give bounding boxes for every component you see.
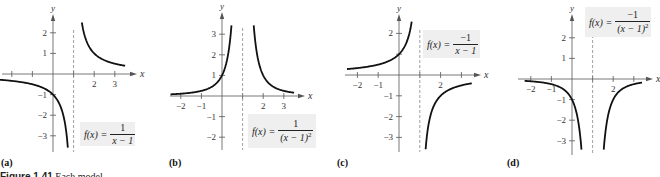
function-lhs: f(x) = [252, 126, 275, 137]
x-axis-arrow-icon [646, 77, 653, 81]
exponent: 2 [308, 131, 312, 139]
x-tick-label: −2 [176, 101, 186, 111]
y-tick-label: −2 [206, 132, 216, 142]
fraction: 1 (x − 1)2 [278, 119, 313, 143]
y-axis-label: y [396, 3, 401, 13]
figure-canvas: xy2321−1−2−3 xy−2−123321−1−2 xy−2−122−1−… [0, 0, 660, 177]
y-tick-label: −1 [37, 90, 47, 100]
panel-label-b: (b) [169, 157, 181, 168]
x-tick-label: −1 [197, 101, 207, 111]
function-label-d: f(x) = −1 (x − 1)2 [585, 7, 651, 37]
function-curve [604, 83, 642, 150]
denominator: x − 1 [453, 44, 478, 56]
y-axis-label: y [50, 3, 55, 13]
function-curve [0, 80, 68, 148]
fraction: −1 (x − 1)2 [615, 10, 650, 34]
panel-label-a: (a) [1, 157, 13, 168]
y-tick-label: −3 [383, 132, 393, 142]
function-label-b: f(x) = 1 (x − 1)2 [248, 114, 316, 148]
x-axis-arrow-icon [130, 72, 137, 76]
function-curve [426, 83, 472, 149]
x-axis-label: x [655, 73, 660, 84]
denominator-text: x − 1 [112, 135, 133, 146]
function-curve [82, 23, 125, 66]
x-tick-label: 2 [438, 80, 443, 90]
y-axis-label: y [219, 1, 224, 11]
y-axis-arrow-icon [570, 14, 574, 21]
x-axis-arrow-icon [298, 94, 305, 98]
function-curve [254, 25, 294, 92]
function-label-c: f(x) = −1 x − 1 [423, 30, 480, 58]
y-tick-label: 2 [562, 33, 567, 43]
denominator-text: x − 1 [455, 45, 476, 56]
x-tick-label: −2 [353, 80, 363, 90]
panel-label-c: (c) [337, 157, 348, 168]
x-tick-label: 2 [92, 79, 97, 89]
y-tick-label: −3 [556, 136, 566, 146]
function-curve [347, 22, 412, 69]
fraction: −1 x − 1 [453, 33, 478, 56]
function-lhs: f(x) = [427, 39, 450, 50]
y-tick-label: 1 [562, 53, 567, 63]
x-tick-label: −2 [526, 84, 536, 94]
function-lhs: f(x) = [84, 129, 107, 140]
y-tick-label: 3 [212, 29, 217, 39]
denominator: (x − 1)2 [615, 21, 650, 34]
y-tick-label: −2 [37, 110, 47, 120]
y-tick-label: −1 [206, 112, 216, 122]
y-tick-label: 2 [43, 28, 48, 38]
y-axis-arrow-icon [397, 14, 401, 21]
exponent: 2 [645, 22, 649, 30]
function-lhs: f(x) = [589, 17, 612, 28]
y-tick-label: −2 [556, 115, 566, 125]
y-tick-label: 2 [389, 28, 394, 38]
figure-caption: Figure 1.41 Each model ... [0, 171, 113, 177]
y-tick-label: 1 [212, 70, 217, 80]
x-axis-label: x [483, 69, 489, 80]
numerator: 1 [118, 123, 127, 134]
y-tick-label: 1 [43, 48, 48, 58]
numerator: −1 [458, 33, 473, 44]
y-tick-label: −1 [556, 95, 566, 105]
caption-label: Figure 1.41 [0, 171, 53, 177]
fraction: 1 x − 1 [110, 123, 135, 146]
denominator: (x − 1)2 [278, 130, 313, 143]
x-tick-label: 2 [261, 101, 266, 111]
x-axis-arrow-icon [474, 73, 481, 77]
denominator-text: (x − 1) [617, 23, 645, 34]
y-tick-label: −1 [383, 91, 393, 101]
x-axis-label: x [139, 68, 145, 79]
denominator-text: (x − 1) [280, 132, 308, 143]
numerator: 1 [291, 119, 300, 130]
graph-c: xy−2−122−1−2−3 [345, 3, 489, 152]
y-axis-arrow-icon [51, 14, 55, 21]
x-axis-label: x [307, 90, 313, 101]
panel-label-d: (d) [507, 157, 519, 168]
numerator: −1 [625, 10, 640, 21]
caption-text: Each model ... [55, 171, 112, 177]
x-tick-label: 3 [282, 101, 287, 111]
y-tick-label: 2 [212, 50, 217, 60]
denominator: x − 1 [110, 134, 135, 146]
x-tick-label: −1 [373, 80, 383, 90]
y-axis-label: y [569, 3, 574, 13]
x-tick-label: 3 [113, 79, 118, 89]
y-tick-label: −2 [383, 112, 393, 122]
x-tick-label: 2 [611, 84, 616, 94]
y-tick-label: −3 [37, 131, 47, 141]
function-label-a: f(x) = 1 x − 1 [80, 122, 135, 146]
y-axis-arrow-icon [220, 12, 224, 19]
